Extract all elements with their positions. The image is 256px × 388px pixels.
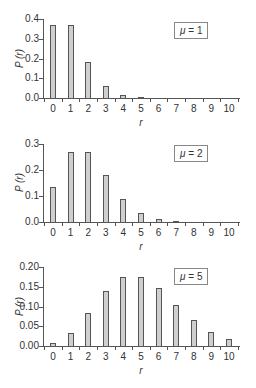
bar-r-6 xyxy=(156,219,162,223)
bar-r-4 xyxy=(120,277,126,347)
x-tick xyxy=(167,99,168,102)
x-tick-label: 1 xyxy=(63,228,79,238)
x-tick-label: 0 xyxy=(45,228,61,238)
x-tick xyxy=(238,223,239,226)
y-tick-label: 0.0 xyxy=(7,93,39,103)
y-tick-label: 0.20 xyxy=(7,262,39,272)
bar-r-0 xyxy=(50,343,56,347)
legend-box: μ = 5 xyxy=(174,268,208,285)
x-tick xyxy=(62,223,63,226)
y-tick xyxy=(39,39,43,40)
x-tick xyxy=(79,223,80,226)
x-tick-label: 4 xyxy=(115,352,131,362)
bar-r-10 xyxy=(226,339,232,347)
x-tick-label: 9 xyxy=(203,228,219,238)
x-tick xyxy=(115,223,116,226)
y-tick xyxy=(39,170,43,171)
bar-r-3 xyxy=(103,175,109,223)
x-tick xyxy=(44,347,45,350)
bar-r-0 xyxy=(50,187,56,223)
x-tick-label: 6 xyxy=(151,104,167,114)
y-tick-label: 0.1 xyxy=(7,73,39,83)
x-tick xyxy=(167,223,168,226)
x-tick-label: 2 xyxy=(80,352,96,362)
x-tick xyxy=(97,223,98,226)
legend-box: μ = 2 xyxy=(174,145,208,162)
x-tick-label: 0 xyxy=(45,104,61,114)
x-tick-label: 1 xyxy=(63,352,79,362)
x-tick-label: 3 xyxy=(98,104,114,114)
bar-r-5 xyxy=(138,277,144,347)
bar-r-2 xyxy=(85,313,91,347)
y-axis xyxy=(43,144,44,223)
y-axis-title: P (r) xyxy=(14,291,25,321)
x-tick xyxy=(185,223,186,226)
x-tick-label: 9 xyxy=(203,104,219,114)
x-tick xyxy=(185,347,186,350)
y-tick-label: 0.4 xyxy=(7,14,39,24)
bar-r-2 xyxy=(85,152,91,223)
bar-r-1 xyxy=(68,152,74,223)
x-tick xyxy=(185,99,186,102)
x-tick xyxy=(115,347,116,350)
x-tick-label: 2 xyxy=(80,228,96,238)
x-tick xyxy=(238,99,239,102)
y-tick xyxy=(39,307,43,308)
x-tick xyxy=(132,99,133,102)
x-tick-label: 7 xyxy=(168,104,184,114)
x-tick xyxy=(44,99,45,102)
y-tick-label: 0.15 xyxy=(7,282,39,292)
x-tick xyxy=(150,223,151,226)
bar-r-1 xyxy=(68,25,74,99)
x-tick xyxy=(238,347,239,350)
x-tick-label: 4 xyxy=(115,104,131,114)
x-tick xyxy=(97,99,98,102)
y-tick xyxy=(39,287,43,288)
y-tick xyxy=(39,326,43,327)
bar-r-4 xyxy=(120,199,126,223)
bar-r-3 xyxy=(103,86,109,99)
x-tick-label: 6 xyxy=(151,352,167,362)
x-tick xyxy=(203,223,204,226)
x-axis-title: r xyxy=(133,241,149,252)
bar-r-1 xyxy=(68,333,74,347)
bar-r-2 xyxy=(85,62,91,99)
x-tick-label: 10 xyxy=(221,228,237,238)
y-axis-title: P (r) xyxy=(14,43,25,73)
bar-r-7 xyxy=(173,305,179,347)
y-tick-label: 0.00 xyxy=(7,341,39,351)
x-tick xyxy=(220,99,221,102)
x-axis-title: r xyxy=(133,365,149,376)
y-tick xyxy=(39,346,43,347)
x-tick xyxy=(62,99,63,102)
legend-box: μ = 1 xyxy=(174,22,208,39)
y-tick xyxy=(39,98,43,99)
x-tick xyxy=(132,223,133,226)
x-tick xyxy=(150,347,151,350)
x-tick xyxy=(220,223,221,226)
x-tick xyxy=(115,99,116,102)
x-tick-label: 8 xyxy=(186,104,202,114)
y-tick xyxy=(39,19,43,20)
x-tick xyxy=(97,347,98,350)
x-tick xyxy=(167,347,168,350)
y-tick xyxy=(39,59,43,60)
x-tick-label: 5 xyxy=(133,104,149,114)
bar-r-7 xyxy=(173,221,179,223)
x-axis-title: r xyxy=(133,117,149,128)
x-tick xyxy=(203,99,204,102)
x-tick-label: 10 xyxy=(221,352,237,362)
x-tick xyxy=(79,347,80,350)
x-tick-label: 6 xyxy=(151,228,167,238)
x-tick-label: 5 xyxy=(133,352,149,362)
bar-r-5 xyxy=(138,97,144,99)
x-tick xyxy=(132,347,133,350)
y-tick xyxy=(39,222,43,223)
bar-r-9 xyxy=(208,332,214,347)
y-tick xyxy=(39,196,43,197)
x-tick xyxy=(150,99,151,102)
x-tick-label: 10 xyxy=(221,104,237,114)
x-tick-label: 8 xyxy=(186,228,202,238)
y-tick xyxy=(39,144,43,145)
y-tick xyxy=(39,267,43,268)
